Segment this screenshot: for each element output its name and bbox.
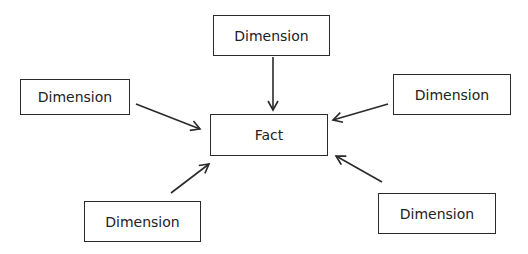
dimension-label: Dimension (105, 214, 179, 230)
arrow-right-to-fact (333, 104, 388, 120)
dimension-box-bottom-right: Dimension (378, 193, 496, 234)
dimension-label: Dimension (38, 89, 112, 105)
arrow-bottom-right-to-fact (336, 156, 382, 182)
dimension-label: Dimension (415, 87, 489, 103)
dimension-box-bottom-left: Dimension (84, 201, 201, 242)
fact-box: Fact (210, 114, 328, 156)
dimension-box-right: Dimension (393, 74, 511, 115)
arrow-left-to-fact (136, 104, 200, 129)
dimension-box-left: Dimension (20, 79, 130, 115)
dimension-label: Dimension (400, 206, 474, 222)
fact-label: Fact (255, 127, 284, 143)
dimension-label: Dimension (234, 28, 308, 44)
arrow-bottom-left-to-fact (171, 164, 209, 193)
dimension-box-top: Dimension (213, 15, 330, 56)
